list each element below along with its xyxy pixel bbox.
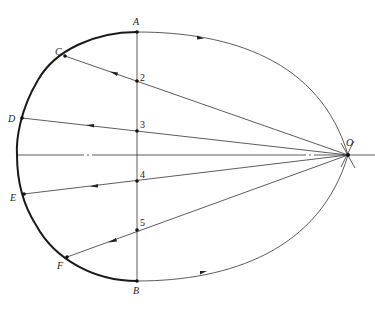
label-d: D xyxy=(7,113,16,124)
point-f xyxy=(65,255,69,259)
points xyxy=(20,30,350,283)
label-o: O xyxy=(346,137,353,148)
ray-o-to-c xyxy=(65,56,348,155)
upper-arc-a-to-o xyxy=(137,32,348,155)
point-c xyxy=(63,54,67,58)
label-2: 2 xyxy=(140,72,145,83)
arrow-lower-arc-icon xyxy=(200,271,207,275)
point-b xyxy=(135,279,139,283)
label-3: 3 xyxy=(140,119,145,130)
label-b: B xyxy=(133,285,139,296)
ray-o-to-d xyxy=(22,118,348,155)
point-2 xyxy=(135,79,139,83)
label-4: 4 xyxy=(140,169,145,180)
label-c: C xyxy=(55,46,62,57)
arrow-ray-c-icon xyxy=(110,72,118,77)
arrow-ray-f-icon xyxy=(108,238,117,243)
point-e xyxy=(22,192,26,196)
label-f: F xyxy=(56,260,64,271)
point-a xyxy=(135,30,139,34)
lower-arc-b-to-o xyxy=(137,155,348,281)
geometric-diagram: A B C D E F O 2 3 4 5 xyxy=(0,0,375,316)
point-3 xyxy=(135,129,139,133)
label-a: A xyxy=(132,16,140,27)
label-5: 5 xyxy=(140,217,145,228)
thick-arc-a-to-b xyxy=(17,32,137,281)
ray-o-to-e xyxy=(24,155,348,194)
point-5 xyxy=(135,228,139,232)
point-4 xyxy=(135,179,139,183)
point-o xyxy=(346,153,350,157)
point-d xyxy=(20,116,24,120)
ray-o-to-f xyxy=(67,155,348,257)
label-e: E xyxy=(9,192,16,203)
